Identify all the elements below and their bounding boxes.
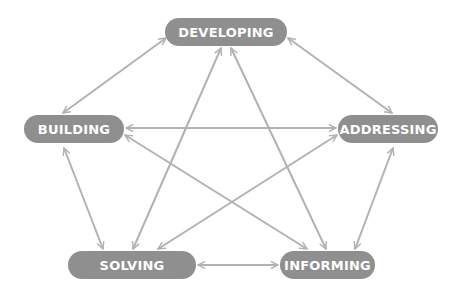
node-label: ADDRESSING — [339, 122, 436, 137]
node-label: DEVELOPING — [178, 25, 273, 40]
edge-building-solving — [64, 148, 103, 249]
node-developing: DEVELOPING — [165, 18, 287, 46]
node-label: INFORMING — [284, 258, 371, 273]
node-solving: SOLVING — [68, 251, 196, 279]
node-informing: INFORMING — [280, 251, 375, 279]
node-label: SOLVING — [100, 258, 165, 273]
edge-addressing-informing — [355, 148, 393, 249]
node-building: BUILDING — [24, 115, 124, 143]
edge-addressing-solving — [158, 135, 337, 249]
node-addressing: ADDRESSING — [338, 115, 438, 143]
edge-building-developing — [63, 38, 166, 113]
node-label: BUILDING — [38, 122, 110, 137]
edge-developing-addressing — [288, 38, 392, 113]
edge-developing-informing — [231, 48, 326, 249]
